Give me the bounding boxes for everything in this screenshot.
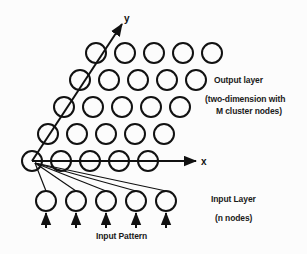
output-node [154,124,174,144]
output-node [67,124,87,144]
output-layer-sublabel-line2: M cluster nodes) [216,106,282,116]
input-to-origin-connections [35,163,166,191]
output-layer-sublabel-line1: (two-dimension with [205,94,285,104]
output-node [96,124,116,144]
input-node [66,191,86,211]
output-node [128,70,148,90]
input-node [96,191,116,211]
output-node [115,43,135,63]
output-node [186,70,206,90]
connection-line [35,163,136,191]
output-node [202,43,222,63]
input-layer-sublabel: (n nodes) [215,213,252,223]
som-network-diagram: x y [0,0,307,254]
input-pattern-label: Input Pattern [96,231,147,241]
input-layer-label: Input Layer [211,194,256,204]
output-node [38,124,58,144]
x-axis-label: x [201,156,207,167]
output-layer-label: Output layer [214,75,263,85]
output-node [125,124,145,144]
y-axis-label: y [124,13,130,24]
output-node [173,43,193,63]
input-pattern-arrows [46,213,166,228]
input-node [156,191,176,211]
y-axis-line [32,24,122,161]
output-node [157,70,177,90]
output-node [144,43,164,63]
output-layer-nodes [22,43,222,171]
output-node [112,97,132,117]
output-node [170,97,190,117]
diagram-canvas: x y Output layer (two-dimension with M c… [0,0,307,254]
output-node [99,70,119,90]
coordinate-axes: x y [32,13,207,167]
input-node [36,191,56,211]
input-layer-nodes [36,191,176,211]
output-node [141,97,161,117]
input-node [126,191,146,211]
output-node [83,97,103,117]
